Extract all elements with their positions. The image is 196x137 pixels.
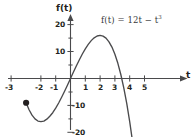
y-tick-label--10: -10 <box>72 101 85 110</box>
y-tick-label-20: 20 <box>55 20 65 29</box>
x-tick-label--1: -1 <box>50 83 58 92</box>
equation-text: f(t) = 12t − t <box>101 15 158 25</box>
left-endpoint-marker <box>23 100 29 106</box>
x-tick-label-1: 1 <box>83 83 88 92</box>
x-tick-label-3: 3 <box>112 83 117 92</box>
function-graph-figure: f(t) t f(t) = 12t − t3 -3 -2 -1 1 2 3 4 … <box>0 0 196 137</box>
x-tick-label-4: 4 <box>127 83 132 92</box>
y-tick-label--20: -20 <box>72 128 85 137</box>
plot-canvas <box>0 0 196 137</box>
equation-annotation: f(t) = 12t − t3 <box>101 14 162 25</box>
x-axis-title: t <box>186 70 190 80</box>
y-axis-arrow-icon <box>67 14 73 21</box>
x-tick-label--2: -2 <box>35 83 43 92</box>
y-axis-title: f(t) <box>56 3 72 13</box>
x-tick-label-2: 2 <box>98 83 103 92</box>
equation-exponent: 3 <box>158 14 162 20</box>
x-tick-label--3: -3 <box>5 83 13 92</box>
x-tick-label-5: 5 <box>142 83 147 92</box>
y-tick-label-10: 10 <box>55 47 65 56</box>
